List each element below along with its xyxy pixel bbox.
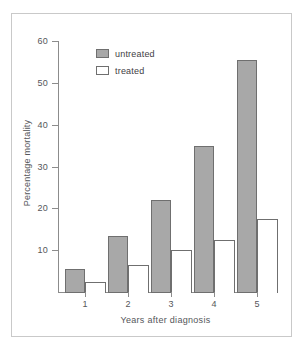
bar-untreated-2 xyxy=(108,236,128,293)
legend-label-treated: treated xyxy=(115,66,144,76)
y-tick-60 xyxy=(52,41,58,42)
y-tick-40 xyxy=(52,125,58,126)
x-tick-1 xyxy=(85,292,86,297)
x-tick-label-2: 2 xyxy=(116,299,140,309)
legend-item-treated: treated xyxy=(96,64,155,77)
legend-label-untreated: untreated xyxy=(115,49,155,59)
x-tick-3 xyxy=(171,292,172,297)
y-tick-label-50: 50 xyxy=(18,78,48,88)
bar-untreated-5 xyxy=(237,60,257,293)
bar-treated-2 xyxy=(128,265,149,293)
x-axis-title: Years after diagnosis xyxy=(58,315,273,325)
x-tick-4 xyxy=(214,292,215,297)
x-tick-label-5: 5 xyxy=(245,299,269,309)
bar-chart: 10 20 30 40 50 60 1 2 3 4 5 Percentage m… xyxy=(0,0,307,353)
y-tick-label-60: 60 xyxy=(18,36,48,46)
chart-legend: untreated treated xyxy=(96,47,155,81)
y-axis-title: Percentage mortality xyxy=(22,103,32,223)
x-tick-5 xyxy=(257,292,258,297)
bar-treated-1 xyxy=(85,282,106,293)
x-tick-label-3: 3 xyxy=(159,299,183,309)
y-tick-50 xyxy=(52,83,58,84)
y-axis-line xyxy=(58,41,59,293)
legend-swatch-treated-icon xyxy=(96,66,109,75)
legend-item-untreated: untreated xyxy=(96,47,155,60)
bar-treated-4 xyxy=(214,240,235,293)
x-tick-label-4: 4 xyxy=(202,299,226,309)
y-tick-10 xyxy=(52,250,58,251)
y-tick-label-10: 10 xyxy=(18,245,48,255)
bar-treated-3 xyxy=(171,250,192,293)
legend-swatch-untreated-icon xyxy=(96,49,109,58)
bar-untreated-3 xyxy=(151,200,171,293)
bar-untreated-4 xyxy=(194,146,214,293)
x-tick-label-1: 1 xyxy=(73,299,97,309)
bar-untreated-1 xyxy=(65,269,85,293)
y-tick-30 xyxy=(52,167,58,168)
y-tick-20 xyxy=(52,208,58,209)
bar-treated-5 xyxy=(257,219,278,293)
x-tick-2 xyxy=(128,292,129,297)
